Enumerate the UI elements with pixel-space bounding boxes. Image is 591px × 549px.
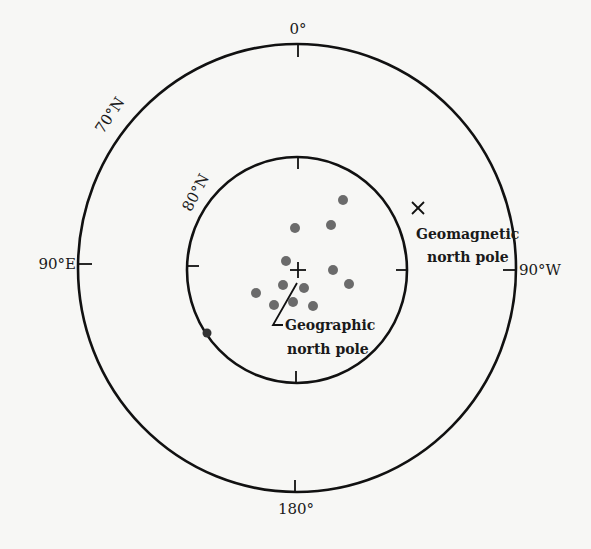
observation-point	[308, 301, 318, 311]
latitude-circle-70n	[78, 44, 516, 492]
observation-point	[299, 283, 309, 293]
label-0-degrees: 0°	[289, 20, 306, 38]
label-80n: 80°N	[178, 171, 213, 215]
geomagnetic-pole-label-line2: north pole	[427, 249, 509, 265]
x-mark-icon	[412, 202, 424, 214]
observation-point	[326, 220, 336, 230]
observation-point	[278, 280, 288, 290]
diagram-canvas: 0° 180° 90°E 90°W 70°N 80°N Geographic n…	[0, 0, 591, 549]
observation-point	[251, 288, 261, 298]
observation-point	[269, 300, 279, 310]
observation-point	[328, 265, 338, 275]
plus-icon	[290, 262, 306, 278]
label-90w: 90°W	[519, 261, 562, 279]
geographic-pole-label-line2: north pole	[287, 341, 369, 357]
observation-point	[338, 195, 348, 205]
observation-point	[288, 297, 298, 307]
observation-point	[344, 279, 354, 289]
observation-point	[290, 223, 300, 233]
geomagnetic-pole-label-line1: Geomagnetic	[416, 226, 519, 242]
label-180-degrees: 180°	[278, 500, 314, 518]
polar-diagram: 0° 180° 90°E 90°W 70°N 80°N Geographic n…	[0, 0, 591, 549]
geographic-pole-label-line1: Geographic	[285, 317, 375, 333]
observation-point	[203, 329, 212, 338]
observation-point	[281, 256, 291, 266]
label-90e: 90°E	[38, 255, 76, 273]
